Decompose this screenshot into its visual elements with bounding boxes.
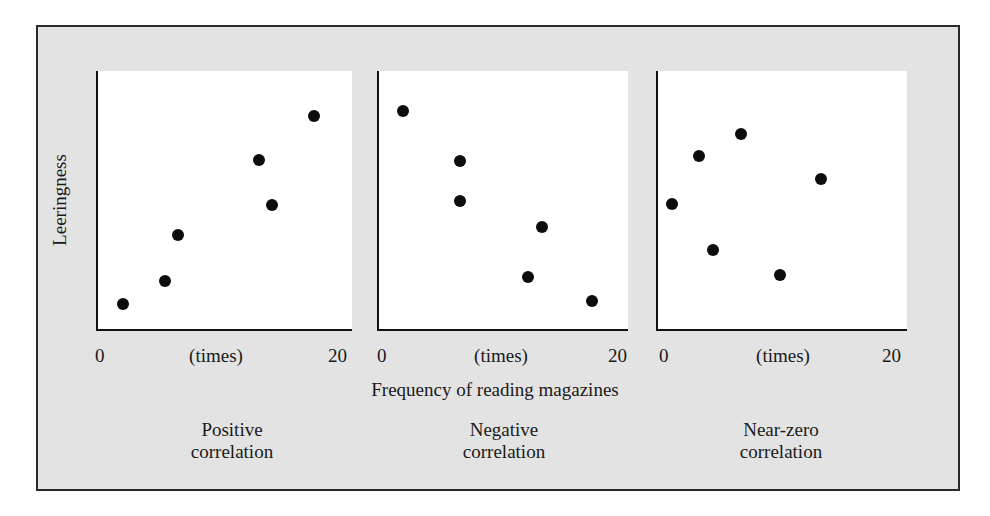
x-unit-label: (times) bbox=[189, 345, 243, 367]
data-point bbox=[815, 173, 827, 185]
data-point bbox=[117, 298, 129, 310]
caption-near-zero: Near-zero correlation bbox=[681, 419, 881, 463]
caption-line: Negative bbox=[404, 419, 604, 441]
caption-line: correlation bbox=[681, 441, 881, 463]
data-point bbox=[454, 155, 466, 167]
x-unit-label: (times) bbox=[756, 345, 810, 367]
data-point bbox=[693, 150, 705, 162]
caption-line: correlation bbox=[404, 441, 604, 463]
data-point bbox=[397, 105, 409, 117]
data-point bbox=[159, 275, 171, 287]
data-point bbox=[536, 221, 548, 233]
caption-negative: Negative correlation bbox=[404, 419, 604, 463]
plot-negative-correlation bbox=[377, 71, 628, 331]
x-tick-max: 20 bbox=[328, 345, 347, 367]
caption-line: correlation bbox=[132, 441, 332, 463]
data-point bbox=[666, 198, 678, 210]
data-point bbox=[454, 195, 466, 207]
caption-line: Positive bbox=[132, 419, 332, 441]
y-axis-label: Leeringness bbox=[49, 154, 71, 246]
data-point bbox=[707, 244, 719, 256]
x-tick-min: 0 bbox=[659, 345, 669, 367]
caption-line: Near-zero bbox=[681, 419, 881, 441]
x-axis-label: Frequency of reading magazines bbox=[0, 378, 990, 402]
data-point bbox=[172, 229, 184, 241]
x-tick-min: 0 bbox=[377, 345, 387, 367]
x-tick-min: 0 bbox=[95, 345, 105, 367]
x-unit-label: (times) bbox=[474, 345, 528, 367]
data-point bbox=[735, 128, 747, 140]
data-point bbox=[586, 295, 598, 307]
plot-near-zero-correlation bbox=[656, 71, 907, 331]
x-tick-max: 20 bbox=[882, 345, 901, 367]
caption-positive: Positive correlation bbox=[132, 419, 332, 463]
plot-positive-correlation bbox=[96, 71, 352, 331]
data-point bbox=[774, 269, 786, 281]
data-point bbox=[522, 271, 534, 283]
data-point bbox=[308, 110, 320, 122]
data-point bbox=[266, 199, 278, 211]
data-point bbox=[253, 154, 265, 166]
x-tick-max: 20 bbox=[608, 345, 627, 367]
